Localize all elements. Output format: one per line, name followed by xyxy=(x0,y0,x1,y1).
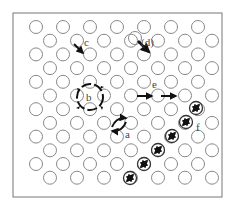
lattice-atom xyxy=(138,130,151,143)
lattice-atom xyxy=(165,21,178,34)
lattice-atom xyxy=(179,89,192,102)
lattice-atom xyxy=(165,75,178,88)
mechanism-c-vacancy: c xyxy=(74,36,89,53)
lattice-atom xyxy=(44,34,57,47)
lattice-atom xyxy=(138,75,151,88)
lattice-atom xyxy=(125,144,138,157)
lattice-atom xyxy=(44,116,57,129)
lattice-atom xyxy=(206,34,219,47)
label-b: b xyxy=(86,91,92,103)
lattice-atom xyxy=(111,48,124,61)
lattice-atom xyxy=(84,75,97,88)
lattice-atom xyxy=(30,75,43,88)
lattice-atom xyxy=(152,116,165,129)
lattice-atom xyxy=(179,34,192,47)
lattice-atom xyxy=(192,75,205,88)
lattice-atom xyxy=(98,34,111,47)
label-f: f xyxy=(196,121,200,133)
lattice-atom xyxy=(206,171,219,184)
label-c: c xyxy=(84,36,89,48)
lattice-atom xyxy=(98,171,111,184)
label-e: e xyxy=(152,78,157,90)
lattice-atom xyxy=(206,62,219,75)
label-a: a xyxy=(125,128,130,140)
lattice-atom xyxy=(30,158,43,171)
lattice-atom xyxy=(84,48,97,61)
lattice-atom xyxy=(165,103,178,116)
mechanism-f-crowdion xyxy=(124,102,203,185)
lattice-atom xyxy=(57,103,70,116)
lattice-atom xyxy=(98,144,111,157)
label-d: (d) xyxy=(141,36,154,49)
lattice-atom xyxy=(30,48,43,61)
lattice-atom xyxy=(57,75,70,88)
lattice-atom xyxy=(44,171,57,184)
lattice-atom xyxy=(44,144,57,157)
lattice-atom xyxy=(71,144,84,157)
lattice-atom xyxy=(179,62,192,75)
lattice-atom xyxy=(152,171,165,184)
lattice-atom xyxy=(30,21,43,34)
lattice-atom xyxy=(125,89,138,102)
lattice-atom xyxy=(179,171,192,184)
lattice-atom xyxy=(71,34,84,47)
lattice-atom xyxy=(84,130,97,143)
lattice-atom xyxy=(125,62,138,75)
lattice-atom xyxy=(57,48,70,61)
lattice-atom xyxy=(44,89,57,102)
lattice-atom xyxy=(111,103,124,116)
lattice-atoms xyxy=(30,21,219,185)
lattice-atom xyxy=(111,75,124,88)
lattice-atom xyxy=(179,144,192,157)
lattice-atom xyxy=(206,144,219,157)
lattice-atom xyxy=(57,130,70,143)
lattice-atom xyxy=(165,48,178,61)
lattice-atom xyxy=(71,171,84,184)
lattice-atom xyxy=(57,21,70,34)
lattice-atom xyxy=(165,158,178,171)
lattice-atom xyxy=(30,103,43,116)
lattice-atom xyxy=(98,116,111,129)
lattice-atom xyxy=(57,158,70,171)
lattice-atom xyxy=(138,21,151,34)
lattice-atom xyxy=(192,21,205,34)
lattice-atom xyxy=(192,158,205,171)
mechanism-e-interstitialcy: e xyxy=(137,78,176,96)
lattice-atom xyxy=(84,158,97,171)
lattice-atom xyxy=(206,116,219,129)
lattice-atom xyxy=(30,130,43,143)
mechanism-a-exchange: a xyxy=(112,118,130,140)
lattice-atom xyxy=(138,103,151,116)
lattice-atom xyxy=(192,48,205,61)
diffusion-lattice-diagram: c (d) b e a f xyxy=(0,0,242,211)
lattice-atom xyxy=(111,21,124,34)
lattice-atom xyxy=(44,62,57,75)
lattice-atom xyxy=(111,158,124,171)
lattice-atom xyxy=(125,34,138,47)
lattice-atom xyxy=(98,89,111,102)
lattice-atom xyxy=(111,130,124,143)
lattice-atom xyxy=(206,89,219,102)
lattice-atom xyxy=(152,62,165,75)
mechanism-d-interstitial: (d) xyxy=(138,36,154,52)
lattice-atom xyxy=(71,62,84,75)
lattice-atom xyxy=(84,21,97,34)
lattice-atom xyxy=(71,116,84,129)
lattice-atom xyxy=(98,62,111,75)
